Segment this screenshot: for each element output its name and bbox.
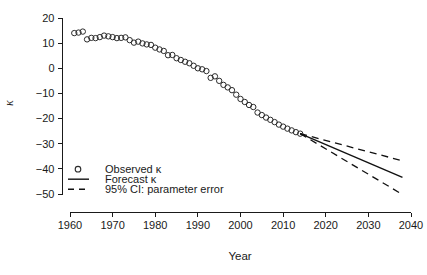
x-tick-label: 2000 [228, 219, 252, 231]
x-tick-label: 1980 [143, 219, 167, 231]
plot-background [0, 0, 427, 275]
x-tick-label: 2030 [356, 219, 380, 231]
x-axis: 196019701980199020002010202020302040 [58, 213, 423, 231]
y-axis-title: κ [2, 100, 16, 106]
y-tick-label: 0 [48, 62, 54, 74]
x-tick-label: 1970 [100, 219, 124, 231]
y-tick-label: 20 [42, 12, 54, 24]
y-tick-label: −40 [36, 163, 55, 175]
chart-figure: 20100−10−20−30−40−50 1960197019801990200… [0, 0, 427, 275]
y-tick-label: −10 [36, 87, 55, 99]
y-tick-label: −50 [36, 188, 55, 200]
y-tick-label: −20 [36, 112, 55, 124]
x-tick-label: 2020 [314, 219, 338, 231]
x-tick-label: 1960 [58, 219, 82, 231]
y-tick-label: 10 [42, 37, 54, 49]
x-axis-title: Year [228, 250, 251, 262]
legend-label: 95% CI: parameter error [105, 183, 224, 195]
x-tick-label: 2040 [399, 219, 423, 231]
y-tick-label: −30 [36, 138, 55, 150]
x-tick-label: 2010 [271, 219, 295, 231]
forecast-scatter-plot: 20100−10−20−30−40−50 1960197019801990200… [0, 0, 427, 275]
x-tick-label: 1990 [186, 219, 210, 231]
